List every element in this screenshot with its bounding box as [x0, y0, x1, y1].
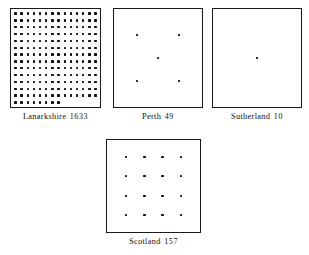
dot — [88, 67, 90, 69]
dot — [143, 195, 145, 197]
dot — [14, 67, 16, 69]
dot — [70, 53, 72, 55]
dot — [94, 67, 96, 69]
dot — [57, 81, 59, 83]
dot-array-figure: Lanarkshire1633 Perth49 Sutherland10 Sco… — [0, 0, 309, 255]
dot — [180, 156, 182, 158]
dot — [64, 12, 66, 14]
dot — [88, 53, 90, 55]
dot — [45, 88, 47, 90]
dot — [39, 94, 41, 96]
panel-lanarkshire: Lanarkshire1633 — [10, 8, 101, 108]
dot — [51, 47, 53, 49]
dot — [70, 88, 72, 90]
dot — [180, 175, 182, 177]
dot — [20, 40, 22, 42]
dot — [20, 53, 22, 55]
dot — [39, 67, 41, 69]
dot — [33, 47, 35, 49]
dot — [45, 74, 47, 76]
dot — [33, 67, 35, 69]
dot — [45, 33, 47, 35]
dot — [94, 26, 96, 28]
dot — [64, 19, 66, 21]
dot — [51, 101, 53, 103]
dot — [51, 26, 53, 28]
dot — [157, 57, 159, 59]
dot — [64, 47, 66, 49]
dot — [57, 12, 59, 14]
dot — [143, 175, 145, 177]
dot — [33, 33, 35, 35]
dot — [51, 60, 53, 62]
dot — [57, 101, 59, 103]
dot — [39, 60, 41, 62]
dot — [33, 40, 35, 42]
dot — [82, 19, 84, 21]
dot — [57, 60, 59, 62]
panel-name-lanarkshire: Lanarkshire — [23, 112, 66, 121]
dot — [51, 81, 53, 83]
dot — [76, 12, 78, 14]
dot — [14, 19, 16, 21]
dot — [33, 60, 35, 62]
panel-count-lanarkshire: 1633 — [70, 112, 88, 121]
dot — [64, 88, 66, 90]
dot — [20, 33, 22, 35]
dot — [256, 57, 258, 59]
dot — [27, 33, 29, 35]
dot — [76, 33, 78, 35]
dot — [14, 88, 16, 90]
dot — [27, 67, 29, 69]
dot — [76, 40, 78, 42]
dot — [57, 53, 59, 55]
dot — [51, 33, 53, 35]
dot — [33, 81, 35, 83]
dot — [45, 19, 47, 21]
dot — [94, 81, 96, 83]
dot — [161, 156, 163, 158]
dot — [39, 88, 41, 90]
dot — [14, 40, 16, 42]
dot — [39, 33, 41, 35]
dot — [14, 12, 16, 14]
dot-field-perth — [113, 8, 203, 108]
panel-label-sutherland: Sutherland10 — [212, 112, 302, 121]
dot — [20, 101, 22, 103]
dot — [94, 33, 96, 35]
dot — [82, 60, 84, 62]
dot — [33, 101, 35, 103]
dot — [64, 81, 66, 83]
dot — [14, 26, 16, 28]
dot — [57, 19, 59, 21]
dot — [39, 26, 41, 28]
dot — [64, 94, 66, 96]
dot — [27, 12, 29, 14]
dot — [76, 47, 78, 49]
dot — [94, 12, 96, 14]
panel-perth: Perth49 — [113, 8, 203, 108]
dot — [76, 67, 78, 69]
dot — [143, 156, 145, 158]
dot — [20, 94, 22, 96]
dot — [94, 94, 96, 96]
dot — [88, 47, 90, 49]
dot — [20, 88, 22, 90]
dot — [64, 33, 66, 35]
dot — [39, 101, 41, 103]
dot — [94, 53, 96, 55]
dot — [64, 67, 66, 69]
dot — [76, 94, 78, 96]
dot — [39, 40, 41, 42]
panel-scotland: Scotland157 — [106, 139, 201, 233]
dot — [70, 40, 72, 42]
panel-label-lanarkshire: Lanarkshire1633 — [10, 112, 101, 121]
dot — [88, 33, 90, 35]
dot — [70, 74, 72, 76]
dot — [70, 19, 72, 21]
dot — [64, 53, 66, 55]
dot — [57, 74, 59, 76]
dot — [180, 214, 182, 216]
panel-name-scotland: Scotland — [129, 237, 161, 246]
dot — [20, 81, 22, 83]
